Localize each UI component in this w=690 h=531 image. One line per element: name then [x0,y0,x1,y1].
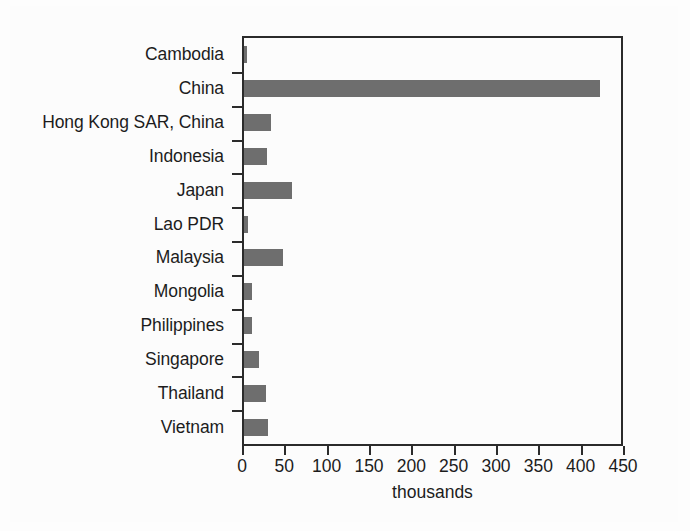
category-label: Mongolia [0,275,232,309]
x-axis-tick-label: 300 [481,456,510,477]
bar-row [244,410,623,444]
bar-row [244,342,623,376]
x-axis-tick-label: 200 [397,456,426,477]
bar-row [244,207,623,241]
category-label: Indonesia [0,139,232,173]
category-label: Thailand [0,376,232,410]
category-label: Cambodia [0,38,232,72]
bar-indonesia [244,148,267,165]
bar-row [244,139,623,173]
x-axis-tick-label: 150 [354,456,383,477]
x-axis-tick [496,446,498,455]
bar-vietnam [244,419,268,436]
category-label: Japan [0,173,232,207]
bar-row [244,241,623,275]
category-label: Singapore [0,342,232,376]
x-axis-tick-label: 350 [524,456,553,477]
bar-hong-kong-sar-china [244,114,271,131]
bar-row [244,106,623,140]
x-axis-tick [581,446,583,455]
bar-row [244,376,623,410]
x-axis-tick-label: 100 [312,456,341,477]
category-label: Hong Kong SAR, China [0,106,232,140]
category-axis-labels: Cambodia China Hong Kong SAR, China Indo… [0,38,232,444]
bar-thailand [244,385,266,402]
bar-row [244,309,623,343]
x-axis-tick-label: 50 [275,456,294,477]
bar-row [244,173,623,207]
category-label: Malaysia [0,241,232,275]
bar-singapore [244,351,259,368]
bar-series [244,38,623,444]
category-label: Philippines [0,309,232,343]
x-axis-tick [284,446,286,455]
x-axis-tick [411,446,413,455]
x-axis-tick-label: 400 [566,456,595,477]
bar-row [244,275,623,309]
bar-lao-pdr [244,216,248,233]
bar-chart: Cambodia China Hong Kong SAR, China Indo… [0,0,690,531]
bar-japan [244,182,292,199]
category-label: Vietnam [0,410,232,444]
bar-mongolia [244,283,252,300]
x-axis-tick [454,446,456,455]
category-label: China [0,72,232,106]
x-axis-tick-label: 250 [439,456,468,477]
bar-row [244,72,623,106]
bar-cambodia [244,46,247,63]
x-axis-tick-label: 0 [237,456,247,477]
x-axis-title: thousands [242,482,623,503]
category-label: Lao PDR [0,207,232,241]
x-axis-tick [623,446,625,455]
x-axis-tick [242,446,244,455]
bar-china [244,80,600,97]
x-axis-tick [327,446,329,455]
bar-philippines [244,317,252,334]
chart-page: Cambodia China Hong Kong SAR, China Indo… [0,0,690,531]
x-axis-tick [369,446,371,455]
bar-malaysia [244,249,283,266]
x-axis-tick [538,446,540,455]
bar-row [244,38,623,72]
x-axis-tick-label: 450 [608,456,637,477]
